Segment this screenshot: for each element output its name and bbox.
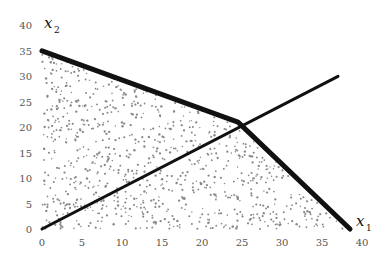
feasible-region-stipple: [41, 52, 348, 229]
x-tick-label: 25: [236, 237, 249, 248]
y-tick-label: 10: [19, 173, 32, 184]
y-tick-label: 30: [19, 71, 32, 82]
x-axis-ticks: 0510152025303540: [39, 237, 369, 248]
x-tick-label: 0: [39, 237, 45, 248]
x-tick-label: 10: [116, 237, 129, 248]
x-tick-label: 5: [79, 237, 85, 248]
constraint-boundary-line: [42, 51, 350, 229]
x-tick-label: 40: [356, 237, 369, 248]
x-tick-label: 15: [156, 237, 169, 248]
y-tick-label: 15: [19, 148, 32, 159]
x-tick-label: 30: [276, 237, 289, 248]
y-tick-label: 40: [19, 20, 32, 31]
y-tick-label: 5: [26, 199, 32, 210]
x-axis-label-var: x: [356, 212, 365, 230]
y-axis-label-sub: 2: [54, 25, 60, 35]
x-tick-label: 20: [196, 237, 209, 248]
y-axis-label-var: x: [44, 14, 53, 32]
y-tick-label: 0: [26, 224, 32, 235]
y-tick-label: 20: [19, 122, 32, 133]
ray-line: [42, 76, 338, 229]
y-axis-label: x 2: [44, 14, 60, 35]
x-axis-label: x 1: [356, 212, 372, 233]
y-tick-label: 25: [19, 97, 32, 108]
y-tick-label: 35: [19, 46, 32, 57]
y-axis-ticks: 0510152025303540: [19, 20, 32, 235]
x-tick-label: 35: [316, 237, 329, 248]
x-axis-label-sub: 1: [366, 223, 372, 233]
chart: 0510152025303540 0510152025303540 x 2 x …: [0, 0, 392, 264]
